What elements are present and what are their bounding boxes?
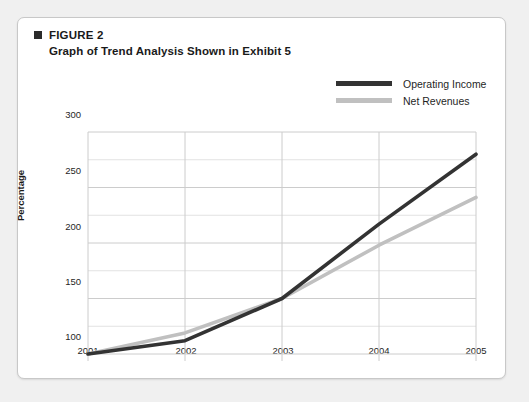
chart-canvas bbox=[18, 18, 507, 380]
figure-card: FIGURE 2 Graph of Trend Analysis Shown i… bbox=[17, 17, 506, 379]
chart-gridlines bbox=[88, 132, 476, 361]
chart-plot-area: Percentage 300 250 200 150 100 2001 2002… bbox=[18, 18, 507, 380]
